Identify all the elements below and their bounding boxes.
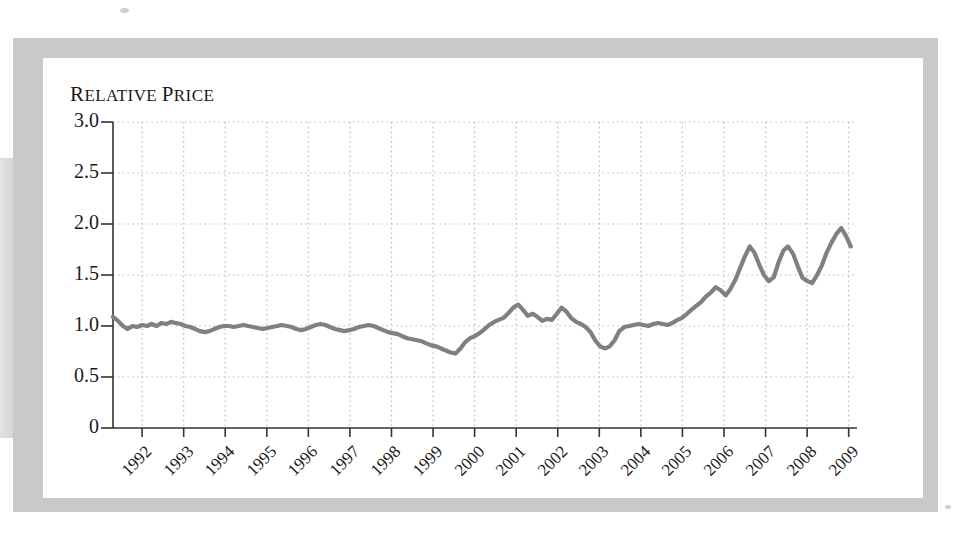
y-tick-label: 2.5 [37, 160, 99, 183]
y-tick-label: 1.0 [37, 313, 99, 336]
y-tick-label: 0.5 [37, 364, 99, 387]
price-line-series [113, 228, 851, 353]
figure-page: RELATIVE PRICE 00.51.01.52.02.53.0 19921… [0, 0, 965, 536]
y-tick-label: 1.5 [37, 262, 99, 285]
y-tick-label: 2.0 [37, 211, 99, 234]
y-tick-label: 3.0 [37, 109, 99, 132]
y-tick-label: 0 [37, 415, 99, 438]
relative-price-chart: RELATIVE PRICE 00.51.01.52.02.53.0 19921… [0, 0, 965, 536]
gridlines [113, 122, 857, 428]
